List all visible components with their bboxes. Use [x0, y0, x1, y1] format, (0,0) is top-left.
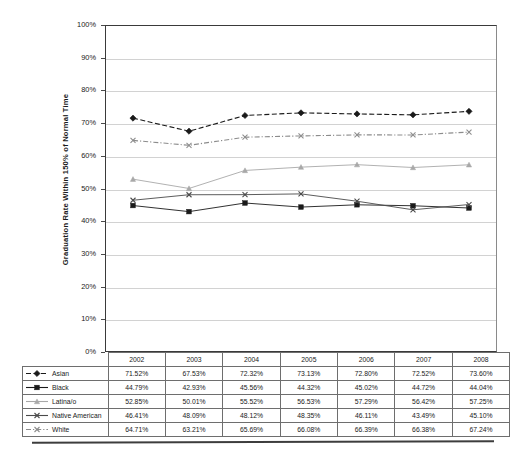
table-cell: 56.53% [280, 395, 337, 409]
table-cell: 67.24% [452, 423, 509, 437]
table-cell: 66.39% [338, 423, 395, 437]
table-cell: 50.01% [165, 395, 222, 409]
legend-swatch-square [25, 382, 49, 393]
y-tick-label: 10% [52, 314, 96, 323]
table-row: Native American46.41%48.09%48.12%48.35%4… [23, 409, 510, 423]
y-tick-label: 100% [52, 20, 96, 29]
legend-item-asian: Asian [23, 367, 109, 381]
table-cell: 42.93% [165, 381, 222, 395]
table-cell: 56.42% [395, 395, 452, 409]
table-cell: 46.11% [338, 409, 395, 423]
data-point-5 [411, 203, 416, 208]
legend-label: Native American [52, 410, 102, 421]
series-latina-o [130, 162, 471, 191]
table-cell: 57.29% [338, 395, 395, 409]
table-cell: 46.41% [108, 409, 165, 423]
table-cell: 66.08% [280, 423, 337, 437]
data-point-legend [35, 385, 40, 390]
y-tick-label: 70% [52, 118, 96, 127]
table-row: Asian71.52%67.53%72.32%73.13%72.80%72.52… [23, 367, 510, 381]
table-cell: 44.32% [280, 381, 337, 395]
table-col-header-2003: 2003 [165, 353, 222, 367]
table-corner-cell [23, 353, 109, 367]
y-tick-label: 50% [52, 184, 96, 193]
data-point-legend [34, 370, 40, 376]
table-cell: 48.35% [280, 409, 337, 423]
y-tick-label: 30% [52, 249, 96, 258]
data-point-1 [187, 209, 192, 214]
table-header-row: 2002200320042005200620072008 [23, 353, 510, 367]
table-cell: 63.21% [165, 423, 222, 437]
table-col-header-2008: 2008 [452, 353, 509, 367]
y-tick-label: 80% [52, 85, 96, 94]
table-col-header-2002: 2002 [108, 353, 165, 367]
table-row: Black44.79%42.93%45.56%44.32%45.02%44.72… [23, 381, 510, 395]
table-cell: 45.56% [223, 381, 280, 395]
table-col-header-2007: 2007 [395, 353, 452, 367]
legend-item-black: Black [23, 381, 109, 395]
table-cell: 72.32% [223, 367, 280, 381]
y-tick-label: 60% [52, 151, 96, 160]
y-tick-label: 90% [52, 53, 96, 62]
y-tick-label: 40% [52, 216, 96, 225]
table-cell: 73.60% [452, 367, 509, 381]
table-cell: 66.38% [395, 423, 452, 437]
series-line [133, 132, 469, 145]
table-cell: 67.53% [165, 367, 222, 381]
table-cell: 72.52% [395, 367, 452, 381]
table-row: Latina/o52.85%50.01%55.52%56.53%57.29%56… [23, 395, 510, 409]
legend-label: White [52, 424, 69, 435]
table-cell: 73.13% [280, 367, 337, 381]
chart-page: Graduation Rate Within 150% of Normal Ti… [0, 0, 522, 451]
data-point-0 [131, 203, 136, 208]
data-point-3 [298, 110, 304, 116]
legend-item-white: White [23, 423, 109, 437]
table-cell: 64.71% [108, 423, 165, 437]
data-point-1 [186, 128, 192, 134]
data-point-4 [354, 111, 360, 117]
legend-swatch-diamond [25, 368, 49, 379]
table-cell: 44.04% [452, 381, 509, 395]
table-body: Asian71.52%67.53%72.32%73.13%72.80%72.52… [23, 367, 510, 437]
data-point-0 [130, 177, 135, 182]
table-col-header-2006: 2006 [338, 353, 395, 367]
table-cell: 57.25% [452, 395, 509, 409]
table-cell: 48.12% [223, 409, 280, 423]
table-row: White64.71%63.21%65.69%66.08%66.39%66.38… [23, 423, 510, 437]
legend-swatch-cross [25, 424, 49, 435]
series-white [131, 130, 472, 148]
y-tick-label: 20% [52, 282, 96, 291]
table-cell: 71.52% [108, 367, 165, 381]
data-point-6 [466, 108, 472, 114]
table-col-header-2005: 2005 [280, 353, 337, 367]
table-cell: 45.02% [338, 381, 395, 395]
table-cell: 72.80% [338, 367, 395, 381]
legend-swatch-triangle [25, 396, 49, 407]
series-asian [130, 108, 472, 134]
data-point-0 [130, 115, 136, 121]
table-cell: 52.85% [108, 395, 165, 409]
table-cell: 65.69% [223, 423, 280, 437]
table-cell: 44.79% [108, 381, 165, 395]
table-cell: 45.10% [452, 409, 509, 423]
series-black [131, 201, 472, 214]
legend-swatch-cross [25, 410, 49, 421]
data-point-6 [467, 130, 472, 135]
data-table: 2002200320042005200620072008 Asian71.52%… [22, 352, 510, 437]
legend-item-native-american: Native American [23, 409, 109, 423]
table-col-header-2004: 2004 [223, 353, 280, 367]
legend-label: Latina/o [52, 396, 76, 407]
table-cell: 44.72% [395, 381, 452, 395]
legend-item-latina-o: Latina/o [23, 395, 109, 409]
data-point-2 [242, 112, 248, 118]
table-cell: 55.52% [223, 395, 280, 409]
data-point-3 [299, 205, 304, 210]
table-cell: 48.09% [165, 409, 222, 423]
legend-label: Asian [52, 368, 69, 379]
table-cell: 43.49% [395, 409, 452, 423]
series-overlay [105, 25, 497, 352]
legend-label: Black [52, 382, 69, 393]
bottom-divider [32, 440, 494, 443]
data-point-5 [410, 112, 416, 118]
data-point-2 [243, 201, 248, 206]
